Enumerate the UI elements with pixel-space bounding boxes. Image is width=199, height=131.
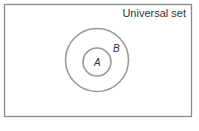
set-b-label: B	[113, 43, 120, 54]
set-a-label: A	[93, 57, 101, 68]
venn-diagram: Universal set B A	[0, 0, 199, 131]
universal-set-label: Universal set	[122, 7, 186, 19]
